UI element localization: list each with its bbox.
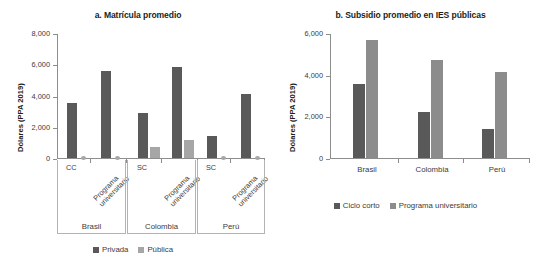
- panel-b-x-axis-line: [330, 158, 530, 159]
- bar-brasil-programa-universitario: [366, 40, 378, 158]
- legend-swatch-icon-ciclo-corto: [334, 203, 340, 209]
- panel-a-group-name-colombia: Colombia: [127, 222, 196, 231]
- panel-b-cat-label-brasil: Brasil: [338, 165, 396, 174]
- panel-a-ytick-label: 8,000: [32, 29, 51, 38]
- legend-label-ciclo-corto: Ciclo corto: [343, 201, 380, 210]
- bar-colombia-ciclo-corto: [418, 112, 430, 158]
- panel-a-title: a. Matrícula promedio: [2, 10, 274, 20]
- panel-b-cat-label-peru: Perú: [468, 165, 526, 174]
- panel-b-y-axis-label: Dólares (PPA 2019): [288, 83, 297, 152]
- bar-brasil-ciclo-corto: [353, 84, 365, 158]
- panel-a-ytick-mark: [53, 34, 57, 35]
- legend-item-programa-universitario: Programa universitario: [390, 201, 477, 210]
- panel-a-ytick-mark: [53, 65, 57, 66]
- legend-swatch-icon-privada: [93, 247, 99, 253]
- legend-item-privada: Privada: [93, 245, 128, 254]
- legend-label-privada: Privada: [102, 245, 128, 254]
- panel-a-legend: Privada Pública: [0, 245, 272, 254]
- bar-colombia-sc-publica: [150, 147, 160, 158]
- panel-a-y-axis-label: Dólares (PPA 2019): [16, 83, 25, 152]
- panel-a-plot-area: 8,000 6,000 4,000 2,000 0: [57, 34, 265, 159]
- panel-b-ytick-mark: [326, 159, 330, 160]
- panel-a-group-name-peru: Perú: [197, 222, 265, 231]
- bar-peru-ciclo-corto: [482, 129, 494, 158]
- legend-swatch-icon-publica: [138, 247, 144, 253]
- panel-b-xtick: [398, 159, 399, 163]
- bar-colombia-pu-publica: [184, 140, 194, 158]
- bar-peru-sc-privada: [207, 136, 217, 158]
- panel-b-xtick: [529, 159, 530, 163]
- panel-b-cat-label-colombia: Colombia: [403, 165, 461, 174]
- panel-a-ytick-label: 6,000: [32, 60, 51, 69]
- bar-brasil-cc-privada: [67, 103, 77, 158]
- panel-b-title: b. Subsidio promedio en IES públicas: [274, 10, 545, 20]
- bar-peru-pu-privada: [241, 94, 251, 158]
- panel-b-ytick-label: 2,000: [305, 112, 324, 121]
- panel-a-ytick-label: 2,000: [32, 123, 51, 132]
- panel-b-ytick-label: 6,000: [305, 29, 324, 38]
- panel-a-ytick-mark: [53, 128, 57, 129]
- panel-b-ytick-label: 0: [319, 154, 323, 163]
- panel-b-xtick: [463, 159, 464, 163]
- panel-a-y-axis-line: [57, 34, 58, 159]
- legend-item-ciclo-corto: Ciclo corto: [334, 201, 380, 210]
- panel-b-y-axis-line: [330, 34, 331, 159]
- panel-b-legend: Ciclo corto Programa universitario: [272, 201, 545, 210]
- panel-b-ytick-mark: [326, 76, 330, 77]
- panel-b-ytick-mark: [326, 34, 330, 35]
- bar-peru-programa-universitario: [495, 72, 507, 159]
- panel-a-ytick-label: 4,000: [32, 92, 51, 101]
- panel-b-ytick-mark: [326, 117, 330, 118]
- panel-b-plot-area: 6,000 4,000 2,000 0: [330, 34, 530, 159]
- panel-a-matricula-promedio: a. Matrícula promedio Dólares (PPA 2019)…: [0, 0, 272, 261]
- legend-label-publica: Pública: [147, 245, 173, 254]
- bar-colombia-programa-universitario: [431, 60, 443, 158]
- bar-brasil-pu-privada: [101, 71, 111, 159]
- legend-label-programa-universitario: Programa universitario: [399, 201, 477, 210]
- legend-item-publica: Pública: [138, 245, 173, 254]
- panel-a-ytick-label: 0: [46, 154, 50, 163]
- bar-colombia-sc-privada: [138, 113, 148, 158]
- panel-a-ytick-mark: [53, 97, 57, 98]
- panel-a-group-name-brasil: Brasil: [57, 222, 126, 231]
- panel-b-ytick-label: 4,000: [305, 71, 324, 80]
- bar-colombia-pu-privada: [172, 67, 182, 158]
- legend-swatch-icon-programa-universitario: [390, 203, 396, 209]
